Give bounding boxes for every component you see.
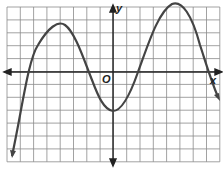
graph-canvas (0, 0, 223, 170)
y-axis (110, 5, 116, 166)
y-axis-label: y (116, 2, 122, 14)
x-axis-label: x (210, 74, 216, 86)
polynomial-curve (12, 3, 218, 156)
origin-label: O (102, 73, 111, 85)
curve-arrows (10, 93, 220, 158)
